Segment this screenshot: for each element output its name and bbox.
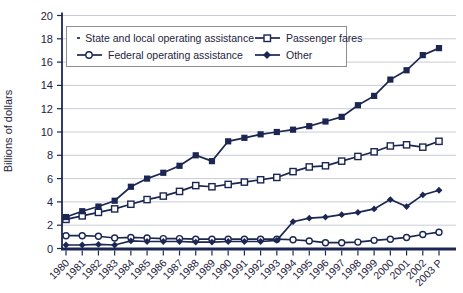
filled-square-marker [274,129,280,135]
open-square-marker [436,138,442,144]
filled-diamond-marker [338,211,345,218]
open-square-marker [306,164,312,170]
filled-square-marker [420,52,426,58]
series-filled-square [63,45,442,220]
filled-diamond-marker [63,242,70,249]
filled-square-marker [128,184,134,190]
series-line [66,190,439,245]
open-circle-marker [322,240,328,246]
open-circle-marker [306,238,312,244]
filled-diamond-marker [322,214,329,221]
open-square-marker [322,163,328,169]
open-square-marker [274,174,280,180]
filled-square-marker [258,131,264,137]
y-tick-label: 16 [41,56,53,68]
open-square-marker [193,182,199,188]
open-square-marker [420,144,426,150]
open-square-marker [225,181,231,187]
y-tick-label: 18 [41,33,53,45]
open-square-marker [339,158,345,164]
open-square-marker [176,188,182,194]
filled-square-marker [355,102,361,108]
filled-square-marker [160,170,166,176]
filled-square-marker [176,163,182,169]
legend-item-other: Other [254,49,362,61]
filled-diamond-marker [355,209,362,216]
open-circle-marker-icon [76,50,103,60]
series-line [66,48,439,217]
y-tick-label: 20 [41,10,53,22]
legend-item-state-local: State and local operating assistance [76,32,254,44]
open-square-marker [403,142,409,148]
filled-square-marker [79,208,85,214]
open-square-marker [160,193,166,199]
open-circle-marker [290,237,296,243]
y-tick-labels: 02468101214161820 [41,10,53,255]
filled-diamond-marker-icon [254,50,281,60]
filled-square-marker [95,203,101,209]
open-square-marker [241,179,247,185]
open-square-marker [258,177,264,183]
open-square-marker [128,201,134,207]
open-circle-marker [339,240,345,246]
filled-diamond-marker [111,242,118,249]
filled-square-marker [306,123,312,129]
y-tick-label: 4 [47,196,53,208]
x-tick-marks [66,251,439,256]
legend-label-state-local: State and local operating assistance [85,32,254,44]
y-tick-label: 0 [47,243,53,255]
open-square-marker [112,206,118,212]
filled-square-marker [371,93,377,99]
open-square-marker [355,153,361,159]
filled-square-marker [322,118,328,124]
open-circle-marker [404,234,410,240]
open-square-marker [209,184,215,190]
filled-square-marker [144,176,150,182]
open-circle-marker [95,233,101,239]
legend-item-federal: Federal operating assistance [76,49,254,61]
open-square-marker [371,149,377,155]
series-line [66,141,439,219]
open-circle-marker [355,239,361,245]
x-tick-labels: 1980198119821983198419851986198719881989… [46,256,444,288]
y-tick-label: 2 [47,219,53,231]
filled-diamond-marker [371,205,378,212]
series-open-square [63,138,442,222]
filled-square-marker [339,114,345,120]
transit-funding-line-chart: 0246810121416182019801981198219831984198… [0,0,463,293]
filled-square-marker [112,198,118,204]
open-circle-marker [79,233,85,239]
filled-square-marker [290,127,296,133]
y-tick-label: 6 [47,173,53,185]
filled-diamond-marker [95,241,102,248]
open-circle-marker [63,233,69,239]
filled-square-marker [209,158,215,164]
open-square-marker [290,169,296,175]
open-square-marker-icon [254,33,281,43]
legend-label-federal: Federal operating assistance [108,49,243,61]
open-square-marker [144,196,150,202]
filled-diamond-marker [306,215,313,222]
filled-square-marker [436,45,442,51]
y-tick-label: 10 [41,126,53,138]
legend-label-passenger-fares: Passenger fares [286,32,362,44]
open-circle-marker [112,235,118,241]
open-circle-marker [436,229,442,235]
filled-diamond-marker [436,187,443,194]
filled-square-marker [403,67,409,73]
y-tick-label: 14 [41,79,53,91]
open-square-marker [387,143,393,149]
filled-square-marker-icon [76,33,80,43]
filled-square-marker [193,152,199,158]
filled-diamond-marker [79,242,86,249]
y-tick-label: 12 [41,103,53,115]
open-square-marker [95,209,101,215]
open-circle-marker [420,232,426,238]
filled-square-marker [241,135,247,141]
chart-legend: State and local operating assistance Pas… [66,26,347,67]
y-axis-title: Billions of dollars [2,89,14,172]
filled-square-marker [387,76,393,82]
y-tick-label: 8 [47,149,53,161]
open-circle-marker [387,236,393,242]
filled-square-marker [225,138,231,144]
